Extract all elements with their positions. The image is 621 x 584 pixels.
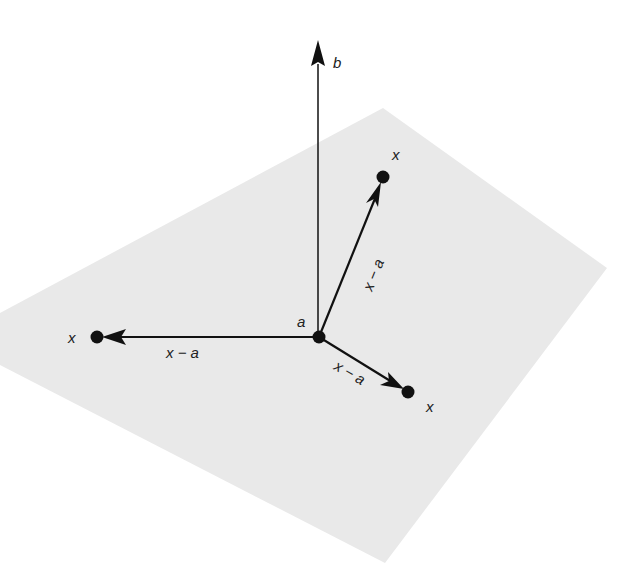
point-label-x: x [67, 329, 76, 346]
vector-label: x − a [165, 344, 199, 361]
point-x-upper-right [377, 171, 390, 184]
origin-label-a: a [297, 313, 305, 330]
point-label-x: x [391, 146, 400, 163]
hyperplane-diagram: b x x − a x x − a x x − a a [0, 0, 621, 584]
origin-point-a [313, 331, 326, 344]
point-label-x: x [425, 398, 434, 415]
arrowhead-icon [311, 40, 325, 66]
point-x-left [91, 331, 104, 344]
point-x-lower-right [402, 386, 415, 399]
normal-label-b: b [333, 54, 341, 71]
